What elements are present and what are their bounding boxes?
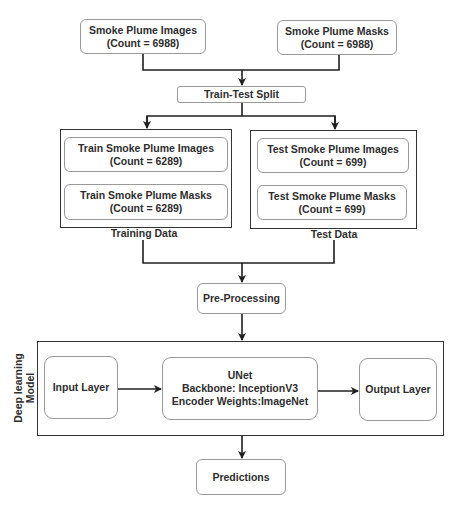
train-masks-count: (Count = 6289) [110, 202, 183, 215]
input-layer-label: Input Layer [53, 381, 110, 394]
train-test-split-box: Train-Test Split [177, 86, 306, 103]
pre-processing-box: Pre-Processing [197, 283, 286, 314]
unet-box: UNet Backbone: InceptionV3 Encoder Weigh… [162, 357, 318, 420]
unet-name: UNet [228, 369, 253, 382]
input-layer-box: Input Layer [44, 356, 118, 419]
smoke-plume-images-box: Smoke Plume Images (Count = 6988) [80, 19, 206, 54]
training-data-label: Training Data [96, 227, 192, 239]
output-layer-label: Output Layer [365, 383, 430, 396]
smoke-plume-images-count: (Count = 6988) [107, 37, 180, 50]
test-images-box: Test Smoke Plume Images (Count = 699) [257, 138, 409, 173]
train-test-split-label: Train-Test Split [204, 88, 279, 101]
train-images-title: Train Smoke Plume Images [78, 142, 214, 155]
model-label-line2: Model [24, 353, 36, 422]
unet-backbone: Backbone: InceptionV3 [182, 382, 298, 395]
test-masks-count: (Count = 699) [299, 203, 366, 216]
output-layer-box: Output Layer [359, 358, 437, 421]
smoke-plume-masks-count: (Count = 6988) [301, 38, 374, 51]
model-label-line1: Deep learning [12, 353, 24, 422]
train-images-count: (Count = 6289) [110, 155, 183, 168]
smoke-plume-masks-title: Smoke Plume Masks [285, 25, 389, 38]
test-images-title: Test Smoke Plume Images [267, 143, 399, 156]
train-images-box: Train Smoke Plume Images (Count = 6289) [64, 137, 228, 172]
predictions-box: Predictions [196, 459, 286, 495]
test-masks-box: Test Smoke Plume Masks (Count = 699) [257, 185, 407, 220]
smoke-plume-masks-box: Smoke Plume Masks (Count = 6988) [277, 20, 397, 55]
pre-processing-label: Pre-Processing [203, 292, 280, 305]
test-images-count: (Count = 699) [300, 156, 367, 169]
test-data-label: Test Data [294, 228, 374, 240]
train-masks-box: Train Smoke Plume Masks (Count = 6289) [64, 184, 228, 220]
train-masks-title: Train Smoke Plume Masks [80, 189, 212, 202]
test-masks-title: Test Smoke Plume Masks [268, 190, 396, 203]
deep-learning-model-label: Deep learning Model [12, 353, 36, 422]
unet-encoder-weights: Encoder Weights:ImageNet [172, 395, 308, 408]
smoke-plume-images-title: Smoke Plume Images [89, 24, 197, 37]
predictions-label: Predictions [212, 471, 269, 484]
